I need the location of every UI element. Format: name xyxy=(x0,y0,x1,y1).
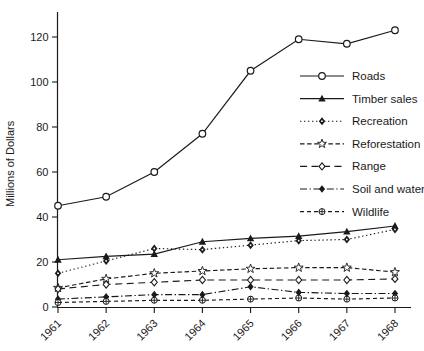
filled-diamond-marker xyxy=(319,185,325,193)
filled-diamond-marker xyxy=(247,283,253,291)
x-tick-label: 1968 xyxy=(375,317,401,343)
legend-label: Wildlife xyxy=(352,206,389,218)
open-circle-marker-shape xyxy=(103,193,110,200)
open-star-marker-shape xyxy=(150,269,159,278)
marker-center-dot xyxy=(346,239,348,241)
open-circle-marker xyxy=(103,193,110,200)
legend-label: Roads xyxy=(352,70,385,82)
marker-center-dot xyxy=(202,249,204,251)
open-star-marker-shape xyxy=(318,139,327,148)
filled-diamond-marker-shape xyxy=(319,185,325,193)
open-star-marker xyxy=(150,269,159,278)
filled-diamond-dot-marker xyxy=(319,117,325,125)
legend-label: Range xyxy=(352,160,386,172)
y-tick-label: 80 xyxy=(36,121,48,133)
open-circle-marker-shape xyxy=(247,67,254,74)
legend-entry: Range xyxy=(300,160,386,172)
y-tick-label: 40 xyxy=(36,211,48,223)
circle-plus-marker xyxy=(392,295,398,301)
circle-plus-marker xyxy=(151,297,157,303)
legend-label: Timber sales xyxy=(352,93,418,105)
y-tick-label: 20 xyxy=(36,256,48,268)
circle-plus-marker xyxy=(55,300,61,306)
x-tick-label: 1967 xyxy=(326,317,352,343)
open-circle-marker xyxy=(199,130,206,137)
y-tick-label: 120 xyxy=(30,31,48,43)
legend-entry: Recreation xyxy=(300,115,408,127)
plot-area xyxy=(54,27,400,306)
y-tick-label: 60 xyxy=(36,166,48,178)
open-star-marker-shape xyxy=(198,266,207,275)
open-diamond-marker xyxy=(319,163,325,170)
open-circle-marker xyxy=(247,67,254,74)
open-diamond-marker xyxy=(199,276,205,283)
marker-center-dot xyxy=(105,260,107,262)
open-star-marker-shape xyxy=(246,264,255,273)
open-circle-marker-shape xyxy=(319,73,326,80)
open-star-marker xyxy=(318,139,327,148)
x-tick-label: 1961 xyxy=(38,317,64,343)
filled-diamond-dot-marker xyxy=(247,241,253,249)
open-star-marker-shape xyxy=(342,263,351,272)
open-diamond-marker xyxy=(392,275,398,282)
open-diamond-marker-shape xyxy=(344,276,350,283)
x-tick-label: 1964 xyxy=(182,317,208,343)
open-star-marker xyxy=(342,263,351,272)
open-circle-marker-shape xyxy=(55,202,62,209)
open-circle-marker xyxy=(151,169,158,176)
open-diamond-marker xyxy=(296,276,302,283)
filled-diamond-dot-marker xyxy=(344,236,350,244)
open-star-marker xyxy=(246,264,255,273)
marker-center-dot xyxy=(250,244,252,246)
filled-diamond-dot-marker xyxy=(199,246,205,254)
open-diamond-marker-shape xyxy=(248,276,254,283)
line-chart-svg: 0204060801001201961196219631964196519661… xyxy=(0,0,424,351)
legend-entry: Timber sales xyxy=(300,93,418,105)
open-diamond-marker-shape xyxy=(392,275,398,282)
open-circle-marker-shape xyxy=(344,40,351,47)
open-circle-marker xyxy=(344,40,351,47)
marker-center-dot xyxy=(57,272,59,274)
open-diamond-marker-shape xyxy=(296,276,302,283)
x-tick-label: 1966 xyxy=(278,317,304,343)
filled-diamond-marker-shape xyxy=(247,283,253,291)
legend-entry: Wildlife xyxy=(300,206,389,218)
y-axis-label: Millions of Dollars xyxy=(4,120,16,207)
filled-diamond-dot-marker xyxy=(151,245,157,253)
open-diamond-marker-shape xyxy=(319,163,325,170)
circle-plus-marker xyxy=(296,295,302,301)
series-line xyxy=(58,30,395,206)
series-roads xyxy=(55,27,399,209)
legend-label: Reforestation xyxy=(352,138,420,150)
marker-center-dot xyxy=(394,228,396,230)
circle-plus-marker xyxy=(344,296,350,302)
x-tick-label: 1965 xyxy=(230,317,256,343)
open-diamond-marker-shape xyxy=(151,279,157,286)
filled-diamond-dot-marker xyxy=(55,269,61,277)
open-circle-marker-shape xyxy=(295,36,302,43)
legend-entry: Reforestation xyxy=(300,138,420,150)
circle-plus-marker xyxy=(199,297,205,303)
circle-plus-marker xyxy=(319,209,325,215)
open-diamond-marker xyxy=(248,276,254,283)
open-circle-marker xyxy=(319,73,326,80)
y-tick-label: 100 xyxy=(30,76,48,88)
open-circle-marker-shape xyxy=(199,130,206,137)
series-line xyxy=(58,226,395,260)
marker-center-dot xyxy=(153,248,155,250)
open-circle-marker-shape xyxy=(392,27,399,34)
open-diamond-marker xyxy=(151,279,157,286)
legend-entry: Soil and water xyxy=(300,183,424,195)
open-circle-marker xyxy=(392,27,399,34)
open-star-marker xyxy=(198,266,207,275)
circle-plus-marker xyxy=(248,296,254,302)
circle-plus-marker xyxy=(103,298,109,304)
x-tick-label: 1962 xyxy=(86,317,112,343)
open-diamond-marker xyxy=(344,276,350,283)
legend-label: Recreation xyxy=(352,115,408,127)
marker-center-dot xyxy=(321,120,323,122)
open-circle-marker xyxy=(55,202,62,209)
line-chart-figure: 0204060801001201961196219631964196519661… xyxy=(0,0,424,351)
open-star-marker-shape xyxy=(294,263,303,272)
open-diamond-marker-shape xyxy=(199,276,205,283)
